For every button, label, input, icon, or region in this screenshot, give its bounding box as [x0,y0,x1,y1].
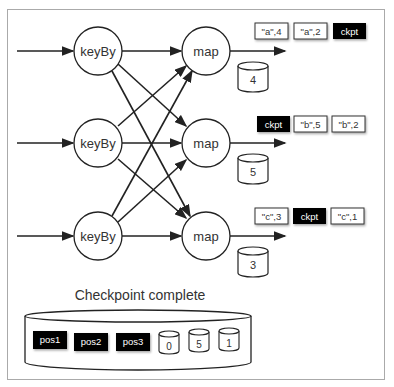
state-store-3: 3 [238,247,268,277]
svg-text:"a",4: "a",4 [262,26,282,37]
svg-text:"b",5: "b",5 [301,119,321,130]
svg-text:"a",2: "a",2 [301,26,321,37]
map-node-3: map [182,212,230,260]
svg-text:keyBy: keyBy [80,44,116,59]
svg-text:pos1: pos1 [40,334,61,345]
svg-text:5: 5 [196,339,202,350]
svg-text:0: 0 [166,341,172,352]
svg-text:3: 3 [250,259,256,271]
svg-text:map: map [193,136,218,151]
stream-row-1: "a",4 "a",2 ckpt [255,23,366,39]
keyby-node-3: keyBy [74,212,122,260]
stream-row-3: "c",3 ckpt "c",1 [255,208,364,224]
state-store-1: 4 [238,62,268,92]
map-node-2: map [182,119,230,167]
svg-text:keyBy: keyBy [80,229,116,244]
svg-text:keyBy: keyBy [80,136,116,151]
shuffle-edges [112,51,192,236]
dataflow-diagram: keyBy keyBy keyBy map map map 4 5 [0,0,394,387]
svg-text:ckpt: ckpt [341,26,359,37]
keyby-node-2: keyBy [74,119,122,167]
state-store-2: 5 [238,154,268,184]
svg-text:"b",2: "b",2 [339,119,359,130]
svg-text:"c",3: "c",3 [262,211,281,222]
svg-text:"c",1: "c",1 [338,211,357,222]
svg-text:ckpt: ckpt [301,211,319,222]
checkpoint-positions: pos1 pos2 pos3 [33,331,150,351]
svg-text:1: 1 [226,338,232,349]
keyby-node-1: keyBy [74,27,122,75]
svg-text:ckpt: ckpt [265,119,283,130]
map-node-1: map [182,27,230,75]
svg-text:pos2: pos2 [81,336,102,347]
svg-text:5: 5 [250,166,256,178]
input-arrows [17,51,73,236]
checkpoint-title: Checkpoint complete [75,287,206,303]
svg-text:map: map [193,44,218,59]
stream-row-2: ckpt "b",5 "b",2 [257,116,365,132]
checkpoint-states: 0 5 1 [159,328,239,354]
svg-text:4: 4 [250,74,256,86]
svg-text:pos3: pos3 [123,336,144,347]
svg-text:map: map [193,229,218,244]
